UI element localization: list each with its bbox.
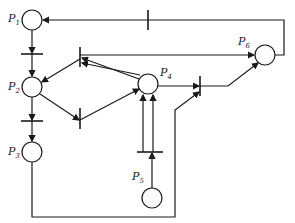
place-p4 (138, 74, 158, 94)
place-p2 (22, 77, 42, 97)
petri-net-diagram: P1 P2 P3 P4 P5 P6 (0, 0, 295, 223)
label-p4: P4 (159, 66, 172, 81)
arc-p3-tr (32, 92, 199, 217)
arc-tl-p4 (80, 89, 139, 120)
arc-p2-tl (40, 94, 79, 120)
label-p3: P3 (7, 145, 20, 160)
arc-tr-p6 (200, 63, 258, 86)
place-p5 (142, 188, 162, 208)
place-p3 (22, 142, 42, 162)
place-p6 (255, 45, 275, 65)
label-p2: P2 (7, 80, 20, 95)
label-p6: P6 (237, 35, 250, 50)
arc-tu-p2 (42, 59, 80, 82)
arc-p4-tu-b (82, 63, 140, 75)
label-p5: P5 (131, 170, 144, 185)
label-p1: P1 (7, 12, 20, 27)
place-p1 (22, 10, 42, 30)
